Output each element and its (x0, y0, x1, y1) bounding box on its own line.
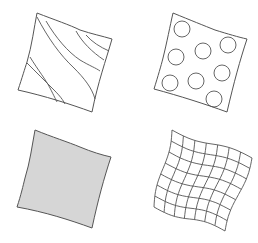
swatch-striped (18, 13, 112, 112)
swatch-polka-dot (154, 13, 247, 112)
dot (206, 91, 222, 107)
dot (195, 43, 211, 59)
dot (214, 65, 230, 81)
grid-line (154, 130, 172, 207)
dot (174, 21, 190, 37)
grid-line (195, 145, 218, 220)
fabric-swatches-diagram (0, 0, 258, 243)
dot (220, 37, 236, 53)
stripe-line (27, 63, 65, 104)
dot (168, 49, 184, 65)
grid-line (225, 158, 252, 231)
grid-line (164, 136, 183, 212)
grid-line (174, 140, 195, 216)
grid-line (184, 143, 206, 218)
grid-line (205, 148, 229, 222)
stripe-line (46, 21, 100, 71)
dot (188, 73, 204, 89)
dot (162, 75, 178, 91)
grid-line (215, 152, 241, 226)
swatch-grid (154, 130, 252, 231)
swatch-solid (17, 130, 111, 228)
stripe-line (37, 17, 95, 99)
